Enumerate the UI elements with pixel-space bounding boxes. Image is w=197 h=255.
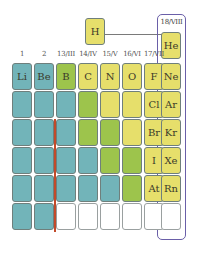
element-be: Be bbox=[34, 63, 54, 90]
group-header: 17/VII bbox=[143, 50, 165, 58]
element-cell bbox=[78, 175, 98, 202]
group-header: 14/IV bbox=[77, 50, 99, 58]
element-cell bbox=[161, 203, 181, 230]
group-header: 2 bbox=[33, 50, 55, 58]
element-cell bbox=[100, 91, 120, 118]
group-header: 16/VI bbox=[121, 50, 143, 58]
element-cell bbox=[12, 175, 32, 202]
element-cell bbox=[100, 203, 120, 230]
element-cell bbox=[78, 119, 98, 146]
element-o: O bbox=[122, 63, 142, 90]
element-li: Li bbox=[12, 63, 32, 90]
element-cell bbox=[100, 147, 120, 174]
group-header: 15/V bbox=[99, 50, 121, 58]
element-xe: Xe bbox=[161, 147, 181, 174]
element-cell bbox=[56, 203, 76, 230]
element-cell bbox=[100, 175, 120, 202]
group-18-header: 18/VIII bbox=[158, 18, 185, 26]
element-cell bbox=[78, 203, 98, 230]
element-rn: Rn bbox=[161, 175, 181, 202]
element-cell bbox=[34, 203, 54, 230]
element-cell bbox=[100, 119, 120, 146]
element-cell bbox=[78, 147, 98, 174]
group-header: 13/III bbox=[55, 50, 77, 58]
group-header: 1 bbox=[11, 50, 33, 58]
element-cell bbox=[34, 91, 54, 118]
element-cell bbox=[122, 91, 142, 118]
element-cell bbox=[122, 175, 142, 202]
element-cell bbox=[56, 175, 76, 202]
element-cell bbox=[34, 119, 54, 146]
element-cell bbox=[34, 175, 54, 202]
element-cell bbox=[12, 203, 32, 230]
element-cell bbox=[122, 147, 142, 174]
element-ar: Ar bbox=[161, 91, 181, 118]
element-cell bbox=[56, 147, 76, 174]
element-n: N bbox=[100, 63, 120, 90]
element-cell bbox=[12, 147, 32, 174]
element-cell bbox=[122, 119, 142, 146]
hydrogen-connector-line bbox=[105, 34, 165, 35]
element-cell bbox=[78, 91, 98, 118]
element-cell bbox=[56, 119, 76, 146]
element-ne: Ne bbox=[161, 63, 181, 90]
element-cell bbox=[122, 203, 142, 230]
element-kr: Kr bbox=[161, 119, 181, 146]
element-cell bbox=[12, 119, 32, 146]
element-c: C bbox=[78, 63, 98, 90]
element-b: B bbox=[56, 63, 76, 90]
element-h: H bbox=[85, 18, 105, 45]
element-cell bbox=[12, 91, 32, 118]
element-cell bbox=[34, 147, 54, 174]
element-cell bbox=[56, 91, 76, 118]
